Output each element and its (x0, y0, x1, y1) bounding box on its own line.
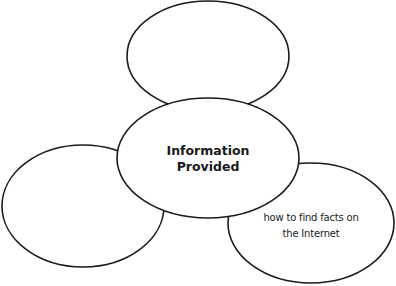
top-ellipse (127, 1, 289, 111)
right-label-line1: how to find facts on (236, 210, 386, 226)
center-label-line1: Information (128, 143, 288, 159)
center-label-line2: Provided (128, 159, 288, 175)
right-label: how to find facts on the Internet (236, 210, 386, 242)
center-label: Information Provided (128, 143, 288, 175)
right-label-line2: the Internet (236, 226, 386, 242)
web-diagram: Information Provided how to find facts o… (0, 0, 396, 286)
